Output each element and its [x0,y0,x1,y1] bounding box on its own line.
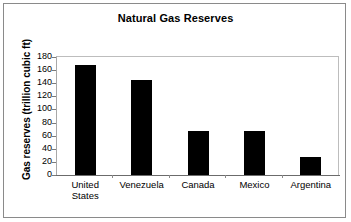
bar[interactable] [300,157,321,175]
x-axis-category-label: Venezuela [113,179,169,201]
figure-frame: Natural Gas Reserves Gas reserves (trill… [3,3,346,218]
x-axis-category-label: Canada [170,179,226,201]
bar[interactable] [131,80,152,175]
x-axis-category-label-line: Mexico [226,179,282,190]
bar[interactable] [75,65,96,175]
chart-screenshot: Natural Gas Reserves Gas reserves (trill… [0,0,351,222]
x-axis-category-label-line: United [57,179,113,190]
bar-slot [57,57,113,175]
x-axis-category-label-line: Venezuela [113,179,169,190]
y-axis-tick-label: 40 [26,144,52,153]
x-axis-tick-mark [169,175,170,178]
y-axis-tick-mark [52,123,56,124]
bar-slot [113,57,169,175]
x-axis-category-label-line: Argentina [283,179,339,190]
y-axis-tick-label: 180 [26,52,52,61]
y-axis-tick-label: 0 [26,170,52,179]
bar[interactable] [244,131,265,175]
y-axis-tick-mark [52,96,56,97]
y-axis-tick-mark [52,149,56,150]
y-axis-tick-mark [52,83,56,84]
y-axis-tick-mark [52,109,56,110]
y-axis-tick-label: 20 [26,157,52,166]
x-axis-category-labels: UnitedStatesVenezuelaCanadaMexicoArgenti… [57,179,339,201]
chart-title: Natural Gas Reserves [4,12,347,24]
y-axis-tick-label: 140 [26,78,52,87]
x-axis-tick-mark [282,175,283,178]
y-axis-tick-label: 120 [26,91,52,100]
x-axis-category-label: UnitedStates [57,179,113,201]
y-axis-tick-label: 160 [26,65,52,74]
x-axis-category-label-line: Canada [170,179,226,190]
y-axis-tick-mark [52,57,56,58]
y-axis-tick-label: 100 [26,104,52,113]
y-axis-tick-label: 60 [26,131,52,140]
y-axis-tick-mark [52,162,56,163]
x-axis-category-label: Argentina [283,179,339,201]
bar-series [57,57,339,175]
y-axis-tick-mark [52,175,56,176]
bar-slot [283,57,339,175]
bar[interactable] [188,131,209,175]
y-axis-tick-labels: 020406080100120140160180 [26,49,52,183]
y-axis-tick-label: 80 [26,118,52,127]
x-axis-line [56,175,340,176]
y-axis-tick-mark [52,136,56,137]
x-axis-category-label-line: States [57,190,113,201]
x-axis-tick-mark [112,175,113,178]
x-axis-tick-mark [225,175,226,178]
y-axis-tick-mark [52,70,56,71]
bar-slot [170,57,226,175]
bar-slot [226,57,282,175]
x-axis-category-label: Mexico [226,179,282,201]
